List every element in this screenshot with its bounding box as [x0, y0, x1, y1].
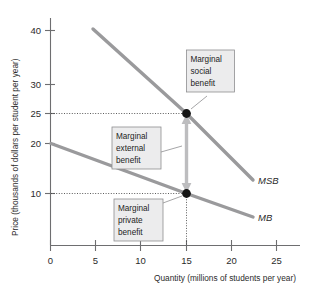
x-tick-label-20: 20 [226, 255, 237, 266]
annotation-marginal-social-benefit[interactable]: Marginal social benefit [187, 50, 235, 109]
marginal-social-benefit-point[interactable] [182, 109, 191, 118]
y-axis-title: Price (thousands of dollars per student … [10, 58, 20, 236]
y-tick-label-25: 25 [30, 108, 41, 119]
y-tick-labels: 40 30 25 20 10 [30, 25, 41, 199]
x-tick-labels: 0 5 10 15 20 25 [48, 255, 282, 266]
x-tick-label-25: 25 [271, 255, 282, 266]
mb-curve-label: MB [258, 212, 273, 223]
marginal-private-benefit-point[interactable] [182, 189, 191, 198]
leader-line-external [161, 146, 182, 152]
external-benefit-gap-arrow [182, 114, 192, 193]
callout-social-line2: social [191, 67, 212, 76]
callout-private-line1: Marginal [118, 204, 150, 213]
economics-line-chart: 40 30 25 20 10 0 5 10 15 20 25 Quantity … [0, 0, 314, 293]
msb-curve-label: MSB [258, 175, 279, 186]
callout-private-line3: benefit [118, 228, 143, 237]
callout-external-line3: benefit [116, 156, 141, 165]
y-tick-label-40: 40 [30, 25, 41, 36]
y-tick-label-10: 10 [30, 188, 41, 199]
x-tick-label-5: 5 [93, 255, 98, 266]
x-tick-label-10: 10 [135, 255, 146, 266]
y-tick-label-30: 30 [30, 79, 41, 90]
callout-external-line1: Marginal [116, 132, 148, 141]
callout-social-line3: benefit [191, 79, 216, 88]
callout-private-line2: private [118, 216, 143, 225]
y-tick-label-20: 20 [30, 138, 41, 149]
x-axis-title: Quantity (millions of students per year) [154, 273, 296, 283]
chart-container: 40 30 25 20 10 0 5 10 15 20 25 Quantity … [0, 0, 314, 293]
leader-line-private [163, 196, 182, 203]
annotation-marginal-private-benefit[interactable]: Marginal private benefit [114, 196, 182, 241]
x-tick-label-15: 15 [181, 255, 192, 266]
annotation-marginal-external-benefit[interactable]: Marginal external benefit [112, 127, 182, 169]
x-tick-label-0: 0 [48, 255, 53, 266]
leader-line-social [191, 96, 207, 109]
callout-social-line1: Marginal [191, 55, 223, 64]
callout-external-line2: external [116, 144, 145, 153]
